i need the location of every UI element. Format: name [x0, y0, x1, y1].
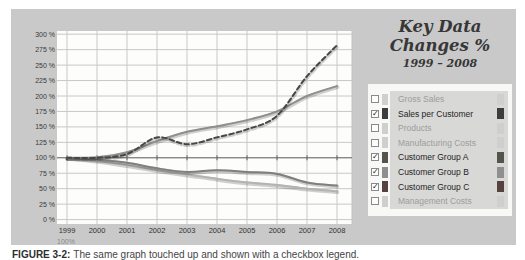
figure-caption: FIGURE 3-2:The same graph touched up and… [12, 249, 512, 260]
legend-checkbox-customer-group-b[interactable]: ✓ [371, 168, 379, 176]
chart-title-block: Key Data Changes % 1999 – 2008 [361, 17, 519, 70]
chart-title: Key Data Changes % [361, 17, 519, 55]
x-axis-label: 2003 [172, 227, 202, 235]
chart-subtitle: 1999 – 2008 [361, 57, 519, 70]
y-axis-label: 150 % [15, 123, 55, 130]
y-axis-label: 275 % [15, 46, 55, 53]
legend-checkbox-products[interactable] [371, 124, 379, 132]
legend-color-chip-right [497, 108, 504, 119]
y-axis-label: 25 % [15, 201, 55, 208]
x-axis-label: 2006 [262, 227, 292, 235]
y-axis-label: 125 % [15, 139, 55, 146]
legend-color-chip-right [497, 196, 504, 207]
legend-color-chip-right [497, 137, 504, 148]
legend-checkbox-gross-sales[interactable] [371, 95, 379, 103]
legend-color-chip-right [497, 167, 504, 178]
legend-label-manufacturing-costs: Manufacturing Costs [388, 138, 497, 148]
y-axis-label: 250 % [15, 62, 55, 69]
x-axis-label: 1999 [52, 227, 82, 235]
figure-caption-text: The same graph touched up and shown with… [73, 249, 359, 260]
legend-label-management-costs: Management Costs [388, 196, 497, 206]
x-axis-label: 2001 [112, 227, 142, 235]
legend-checkbox-manufacturing-costs[interactable] [371, 139, 379, 147]
x-axis-label: 2004 [202, 227, 232, 235]
legend-checkbox-management-costs[interactable] [371, 197, 379, 205]
legend-item-sales-per-customer: ✓Sales per Customer [371, 107, 509, 122]
legend-item-gross-sales: Gross Sales [371, 92, 509, 107]
figure-background: 0 %25 %50 %75 %100 %125 %150 %175 %200 %… [11, 9, 516, 245]
figure-caption-label: FIGURE 3-2: [12, 249, 70, 260]
legend-label-sales-per-customer: Sales per Customer [388, 109, 497, 119]
y-axis-label: 75 % [15, 170, 55, 177]
legend-label-customer-group-a: Customer Group A [388, 152, 497, 162]
legend-color-chip-right [497, 123, 504, 134]
baseline-note: 100% [57, 238, 75, 245]
x-axis-label: 2007 [292, 227, 322, 235]
y-axis-label: 200 % [15, 93, 55, 100]
legend-item-management-costs: Management Costs [371, 194, 509, 209]
x-axis-label: 2000 [82, 227, 112, 235]
legend-checkbox-customer-group-a[interactable]: ✓ [371, 153, 379, 161]
legend-item-products: Products [371, 121, 509, 136]
y-axis-label: 100 % [15, 154, 55, 161]
legend-panel: Gross Sales✓Sales per CustomerProductsMa… [368, 84, 512, 216]
legend-checkbox-sales-per-customer[interactable]: ✓ [371, 110, 379, 118]
legend-label-customer-group-c: Customer Group C [388, 182, 497, 192]
y-axis-label: 50 % [15, 185, 55, 192]
x-axis-label: 2005 [232, 227, 262, 235]
legend-item-customer-group-b: ✓Customer Group B [371, 165, 509, 180]
x-axis-label: 2002 [142, 227, 172, 235]
legend-item-customer-group-c: ✓Customer Group C [371, 179, 509, 194]
legend-label-gross-sales: Gross Sales [388, 94, 497, 104]
y-axis-label: 225 % [15, 77, 55, 84]
legend-item-customer-group-a: ✓Customer Group A [371, 150, 509, 165]
legend-label-products: Products [388, 123, 497, 133]
legend-item-manufacturing-costs: Manufacturing Costs [371, 136, 509, 151]
legend-color-chip-right [497, 152, 504, 163]
y-axis-label: 300 % [15, 31, 55, 38]
legend-label-customer-group-b: Customer Group B [388, 167, 497, 177]
legend-color-chip-right [497, 181, 504, 192]
legend-checkbox-customer-group-c[interactable]: ✓ [371, 183, 379, 191]
y-axis-label: 175 % [15, 108, 55, 115]
y-axis-label: 0 % [15, 216, 55, 223]
legend-color-chip-right [497, 94, 504, 105]
x-axis-label: 2008 [322, 227, 352, 235]
